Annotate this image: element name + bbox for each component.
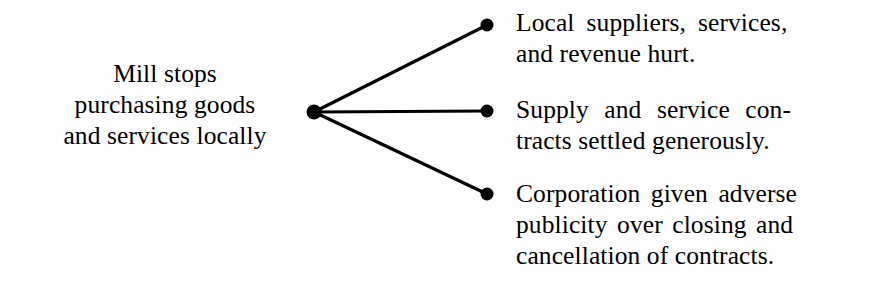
node-group	[307, 19, 494, 201]
effect-label-0-line-1: and revenue hurt.	[516, 38, 888, 69]
cause-label-line-0: Mill stops	[34, 58, 296, 89]
edge-cause-to-effect-1	[314, 111, 487, 112]
effect-label-0-line-0: Local suppliers, services,	[516, 7, 888, 38]
effect-label-2-line-1: publicity over closing and	[516, 209, 888, 240]
effect-node-dot-1[interactable]	[481, 105, 494, 118]
cause-label-line-1: purchasing goods	[34, 89, 296, 120]
effect-label-1-line-0: Supply and service con-	[516, 94, 888, 125]
effect-label-0: Local suppliers, services, and revenue h…	[516, 7, 888, 69]
effect-node-dot-0[interactable]	[481, 19, 494, 32]
edge-group	[314, 25, 487, 194]
edge-cause-to-effect-2	[314, 112, 487, 194]
effect-label-1: Supply and service con- tracts settled g…	[516, 94, 888, 156]
effect-label-1-line-1: tracts settled generously.	[516, 125, 888, 156]
cause-label: Mill stops purchasing goods and services…	[34, 58, 296, 151]
effect-label-2-line-2: cancellation of contracts.	[516, 240, 888, 271]
cause-label-line-2: and services locally	[34, 120, 296, 151]
edge-cause-to-effect-0	[314, 25, 487, 112]
effect-node-dot-2[interactable]	[481, 188, 494, 201]
diagram-canvas: Mill stops purchasing goods and services…	[0, 0, 892, 300]
effect-label-2-line-0: Corporation given adverse	[516, 178, 888, 209]
effect-label-2: Corporation given adverse publicity over…	[516, 178, 888, 271]
cause-node-dot[interactable]	[307, 105, 322, 120]
